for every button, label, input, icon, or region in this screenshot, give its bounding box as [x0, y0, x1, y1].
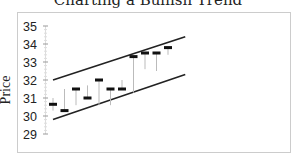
y-tick-label: 32	[23, 74, 37, 88]
y-tick-label: 35	[23, 20, 37, 34]
y-tick-label: 30	[23, 110, 37, 124]
price-bar	[107, 88, 115, 106]
y-tick-label: 34	[23, 38, 37, 52]
y-tick-label: 29	[23, 128, 37, 142]
price-bar	[72, 88, 80, 106]
trend-line	[53, 75, 185, 120]
price-bar	[153, 52, 161, 72]
plot-frame	[18, 13, 291, 153]
price-bar	[61, 89, 69, 112]
price-bars	[49, 46, 172, 112]
trend-line	[53, 37, 185, 80]
price-bar	[49, 98, 57, 111]
y-tick-label: 31	[23, 92, 37, 106]
price-bar	[141, 52, 149, 70]
price-bar	[118, 80, 126, 91]
y-tick-label: 33	[23, 56, 37, 70]
price-bar	[84, 85, 92, 99]
price-bar	[164, 46, 172, 55]
price-bar	[130, 55, 138, 93]
price-bar	[95, 79, 103, 106]
candlestick-chart: 29303132333435	[0, 0, 296, 154]
trend-lines	[53, 37, 185, 120]
y-axis: 29303132333435	[23, 20, 48, 142]
